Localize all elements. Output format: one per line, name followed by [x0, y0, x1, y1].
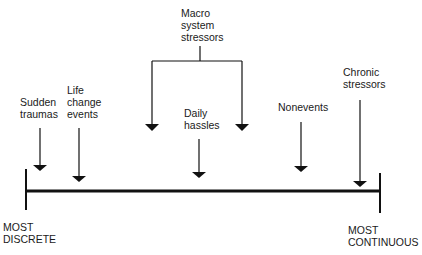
arrow-chronic-stressors [353, 100, 367, 187]
label-sudden-traumas: Sudden traumas [20, 96, 58, 120]
label-daily-hassles: Daily hassles [184, 107, 220, 131]
arrow-sudden-traumas [33, 128, 47, 171]
label-nonevents: Nonevents [278, 101, 328, 113]
label-most-discrete: MOST DISCRETE [3, 221, 56, 245]
arrow-life-change-events [72, 128, 86, 182]
arrow-nonevents [294, 122, 308, 172]
label-life-change-events: Life change events [67, 84, 101, 120]
label-macro-system-stressors: Macro system stressors [181, 7, 224, 43]
label-most-continuous: MOST CONTINUOUS [348, 224, 419, 248]
arrow-daily-hassles [192, 139, 206, 178]
label-chronic-stressors: Chronic stressors [343, 66, 386, 90]
